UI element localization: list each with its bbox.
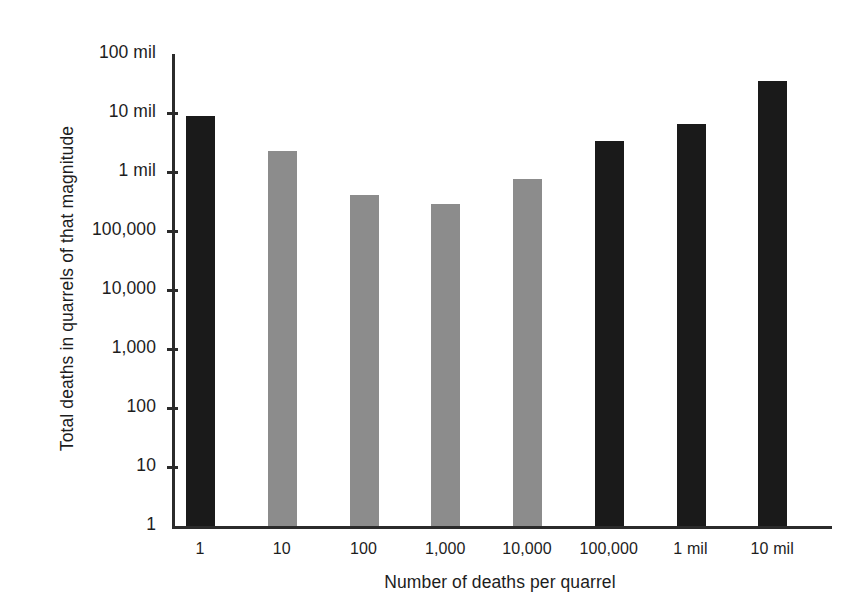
x-axis-tick-label: 10 mil <box>727 540 817 558</box>
y-axis-tick-mark <box>167 230 178 233</box>
bar-slot <box>593 54 675 526</box>
x-axis-tick-label: 10,000 <box>482 540 572 558</box>
bar <box>186 116 215 526</box>
x-axis-tick-label: 1 mil <box>646 540 736 558</box>
y-axis-tick-label: 100 <box>127 396 157 417</box>
bar-slot <box>348 54 430 526</box>
bar <box>595 141 624 526</box>
y-axis-tick-mark <box>167 112 178 115</box>
bar-slot <box>675 54 757 526</box>
x-axis-tick-label: 100,000 <box>564 540 654 558</box>
bar-slot <box>756 54 838 526</box>
x-axis-tick-label: 10 <box>237 540 327 558</box>
bar-slot <box>429 54 511 526</box>
y-axis-tick-label: 1 mil <box>119 160 156 181</box>
y-axis-tick-mark <box>167 289 178 292</box>
bar <box>513 179 542 526</box>
chart-figure: Total deaths in quarrels of that magnitu… <box>0 0 844 599</box>
plot-area: 1101001,00010,000100,0001 mil10 mil100 m… <box>178 54 832 526</box>
y-axis-tick-mark <box>167 407 178 410</box>
y-axis-tick-mark <box>167 348 178 351</box>
x-axis-tick-label: 1,000 <box>400 540 490 558</box>
bar-slot <box>184 54 266 526</box>
x-axis-title: Number of deaths per quarrel <box>170 572 830 593</box>
y-axis-tick-mark <box>167 466 178 469</box>
bar-series <box>178 54 832 526</box>
bar <box>677 124 706 526</box>
y-axis-tick-label: 10 <box>136 455 156 476</box>
x-axis-tick-label: 1 <box>155 540 245 558</box>
y-axis-tick-label: 10 mil <box>109 101 156 122</box>
y-axis-tick-label: 100,000 <box>92 219 156 240</box>
bar <box>268 151 297 526</box>
y-axis-tick-label: 10,000 <box>102 278 156 299</box>
bar <box>758 81 787 526</box>
y-axis-tick-label: 1,000 <box>112 337 156 358</box>
x-axis-tick-label: 100 <box>319 540 409 558</box>
bar-slot <box>266 54 348 526</box>
bar <box>431 204 460 526</box>
y-axis-tick-label: 1 <box>146 514 156 535</box>
y-axis-tick-mark <box>167 171 178 174</box>
bar-slot <box>511 54 593 526</box>
x-axis-spine <box>172 526 832 529</box>
y-axis-title: Total deaths in quarrels of that magnitu… <box>57 54 78 524</box>
bar <box>350 195 379 526</box>
y-axis-tick-label: 100 mil <box>99 42 156 63</box>
